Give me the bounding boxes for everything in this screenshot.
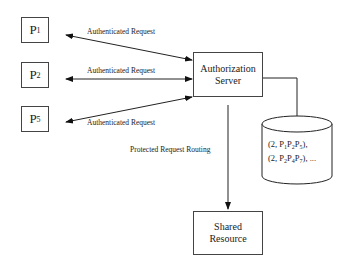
- shared-resource-line1: Shared: [209, 221, 246, 233]
- database-entries: (2, P1P2P5), (2, P2P4P7), ...: [268, 139, 316, 167]
- p2-sub: 2: [37, 71, 41, 80]
- principal-p2: P2: [21, 62, 49, 88]
- edge-p1-auth: [66, 35, 192, 60]
- p5-sub: 5: [37, 115, 41, 124]
- principal-p5: P5: [21, 106, 49, 132]
- edge-label-req2: Authenticated Request: [87, 66, 155, 75]
- authorization-server: Authorization Server: [193, 52, 263, 97]
- auth-server-line1: Authorization: [200, 63, 256, 75]
- db-row-1: (2, P1P2P5),: [268, 139, 316, 153]
- p5-letter: P: [29, 111, 36, 127]
- p1-sub: 1: [37, 26, 41, 35]
- edge-auth-db: [262, 78, 297, 117]
- principal-p1: P1: [21, 17, 49, 43]
- edge-label-req3: Authenticated Request: [87, 118, 155, 127]
- p2-letter: P: [29, 67, 36, 83]
- shared-resource: Shared Resource: [193, 211, 263, 255]
- edge-label-req1: Authenticated Request: [87, 27, 155, 36]
- auth-server-line2: Server: [200, 75, 256, 87]
- edge-label-routing: Protected Request Routing: [130, 145, 210, 154]
- p1-letter: P: [29, 22, 36, 38]
- diagram-edges: [0, 0, 347, 272]
- db-row-2: (2, P2P4P7), ...: [268, 153, 316, 167]
- shared-resource-line2: Resource: [209, 233, 246, 245]
